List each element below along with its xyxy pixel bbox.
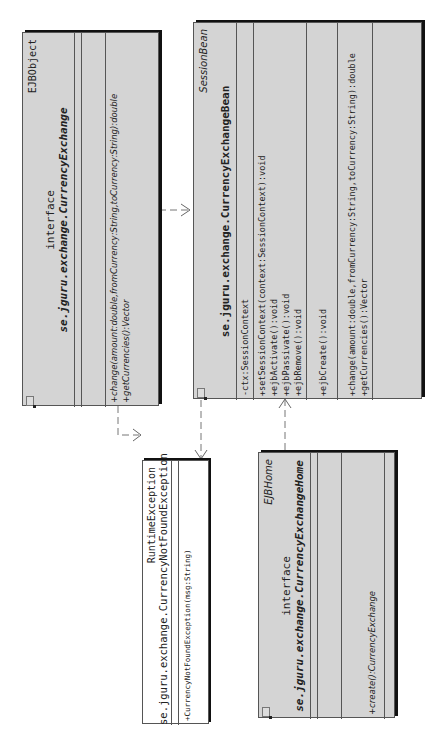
stereotype-label: SessionBean	[194, 23, 209, 400]
stereotype-label: RuntimeException	[143, 461, 157, 725]
method: +ejbPassivate():void	[280, 27, 292, 396]
attributes-section: -ctx:SessionContext	[236, 23, 253, 400]
class-name: se.jguru.exchange.CurrencyNotFoundExcept…	[157, 461, 171, 725]
resize-handle-icon[interactable]	[197, 388, 205, 398]
method: +getCurrencies():Vector	[120, 37, 132, 403]
class-name: se.jguru.exchange.CurrencyExchange	[57, 33, 74, 407]
kind-label: interface	[44, 33, 57, 407]
class-currency-exchange-home[interactable]: EJBHome interface se.jguru.exchange.Curr…	[258, 452, 395, 718]
empty-section	[81, 33, 105, 407]
resize-handle-icon[interactable]	[26, 396, 34, 406]
class-currency-exchange-bean[interactable]: SessionBean se.jguru.exchange.CurrencyEx…	[193, 22, 422, 399]
method: +ejbRemove():void	[292, 27, 304, 396]
attributes-section	[74, 33, 81, 407]
class-currency-exchange[interactable]: EJBObject interface se.jguru.exchange.Cu…	[22, 32, 159, 406]
kind-label: interface	[280, 453, 293, 719]
constructor: +CurrencyNotFoundException(msg:String)	[182, 465, 194, 721]
attribute: -ctx:SessionContext	[239, 27, 251, 396]
lifecycle-methods-section: +setSessionContext(context:SessionContex…	[253, 23, 306, 400]
methods-section: +create():CurrencyExchange	[341, 453, 384, 719]
class-currency-not-found-exception[interactable]: RuntimeException se.jguru.exchange.Curre…	[142, 460, 209, 724]
method: +ejbCreate():void	[317, 27, 329, 396]
attributes-section	[171, 461, 178, 725]
class-name: se.jguru.exchange.CurrencyExchangeHome	[293, 453, 310, 719]
methods-section: +CurrencyNotFoundException(msg:String)	[178, 461, 196, 725]
empty-section	[384, 453, 395, 719]
method: +create():CurrencyExchange	[366, 457, 378, 715]
stereotype-label: EJBObject	[23, 33, 38, 407]
business-methods-section: +change(amount:double,fromCurrency:Strin…	[337, 23, 372, 400]
method: +change(amount:double,fromCurrency:Strin…	[108, 37, 120, 403]
method: +ejbActivate():void	[268, 27, 280, 396]
method: +getCurrencies():Vector	[358, 27, 370, 396]
stereotype-label: EJBHome	[259, 453, 274, 719]
class-name: se.jguru.exchange.CurrencyExchangeBean	[219, 23, 236, 400]
resize-handle-icon[interactable]	[262, 707, 270, 717]
empty-section	[317, 453, 341, 719]
method: +change(amount:double,fromCurrency:Strin…	[346, 27, 358, 396]
methods-section: +change(amount:double,fromCurrency:Strin…	[105, 33, 134, 407]
method: +setSessionContext(context:SessionContex…	[256, 27, 268, 396]
empty-section	[372, 23, 383, 400]
attributes-section	[310, 453, 317, 719]
create-methods-section: +ejbCreate():void	[306, 23, 337, 400]
